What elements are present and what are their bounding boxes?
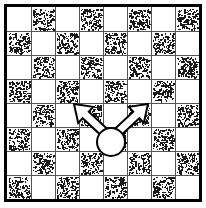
stipple-dot — [24, 33, 25, 34]
stipple-dot — [61, 143, 62, 145]
board-square — [7, 151, 31, 175]
board-square-base — [175, 31, 199, 55]
stipple-dot — [15, 132, 16, 134]
stipple-dot — [155, 43, 156, 44]
stipple-dot — [62, 92, 64, 93]
stipple-dot — [83, 20, 85, 22]
stipple-dot — [170, 50, 171, 52]
stipple-dot — [158, 41, 160, 43]
stipple-dot — [187, 170, 188, 171]
stipple-dot — [158, 91, 159, 93]
stipple-dot — [101, 73, 102, 74]
stipple-dot — [111, 89, 112, 91]
stipple-dot — [18, 101, 19, 102]
stipple-dot — [65, 142, 66, 143]
board-square — [175, 55, 199, 79]
stipple-dot — [172, 181, 174, 182]
stipple-dot — [40, 10, 41, 11]
stipple-dot — [23, 101, 25, 103]
stipple-dot — [133, 21, 135, 23]
stipple-dot — [83, 28, 84, 30]
stipple-dot — [138, 12, 139, 14]
stipple-dot — [9, 141, 10, 142]
stipple-dot — [138, 68, 140, 70]
stipple-dot — [18, 39, 19, 40]
stipple-dot — [119, 81, 120, 82]
stipple-dot — [180, 22, 181, 23]
stipple-dot — [27, 196, 29, 198]
stipple-dot — [188, 112, 190, 114]
stipple-dot — [26, 99, 27, 100]
stipple-dot — [46, 57, 47, 59]
stipple-dot — [145, 68, 146, 69]
stipple-dot — [178, 116, 179, 118]
stipple-dot — [46, 13, 47, 14]
stipple-dot — [85, 12, 86, 14]
stipple-dot — [15, 33, 16, 35]
stipple-dot — [178, 159, 179, 160]
stipple-dot — [167, 96, 168, 97]
stipple-dot — [83, 19, 84, 20]
stipple-dot — [182, 167, 183, 169]
stipple-dot — [70, 187, 71, 188]
stipple-dot — [181, 107, 183, 108]
stipple-dot — [22, 40, 23, 41]
stipple-dot — [63, 85, 65, 87]
stipple-dot — [43, 153, 45, 154]
stipple-dot — [33, 160, 35, 161]
stipple-dot — [178, 13, 179, 14]
stipple-dot — [147, 27, 149, 28]
stipple-dot — [146, 168, 147, 169]
stipple-dot — [195, 168, 196, 169]
stipple-dot — [164, 148, 166, 150]
stipple-dot — [173, 187, 174, 189]
stipple-dot — [171, 177, 172, 178]
stipple-dot — [12, 87, 14, 89]
stipple-dot — [158, 136, 160, 138]
stipple-dot — [94, 153, 95, 154]
stipple-dot — [63, 145, 64, 147]
stipple-dot — [34, 25, 35, 27]
stipple-dot — [20, 180, 21, 182]
stipple-dot — [71, 88, 72, 89]
stipple-dot — [188, 168, 190, 169]
stipple-dot — [9, 142, 10, 144]
stipple-dot — [162, 196, 163, 197]
stipple-dot — [19, 53, 20, 54]
stipple-dot — [101, 75, 102, 76]
board-square-base — [127, 175, 151, 199]
board-square — [103, 55, 127, 79]
stipple-dot — [171, 50, 172, 51]
stipple-dot — [39, 158, 40, 159]
stipple-dot — [99, 13, 100, 14]
stipple-dot — [62, 130, 63, 131]
stipple-dot — [129, 158, 131, 159]
stipple-dot — [122, 179, 123, 180]
stipple-dot — [188, 163, 190, 165]
stipple-dot — [106, 37, 108, 39]
stipple-dot — [69, 96, 70, 97]
stipple-dot — [155, 181, 156, 182]
stipple-dot — [20, 129, 22, 131]
stipple-dot — [185, 167, 187, 168]
stipple-dot — [146, 170, 147, 172]
stipple-dot — [53, 167, 54, 169]
stipple-dot — [21, 53, 23, 54]
stipple-dot — [29, 185, 31, 187]
stipple-dot — [81, 29, 82, 30]
stipple-dot — [121, 180, 123, 181]
stipple-dot — [190, 165, 191, 167]
stipple-dot — [81, 16, 82, 17]
stipple-dot — [100, 116, 102, 117]
stipple-dot — [182, 73, 184, 75]
stipple-dot — [94, 171, 95, 172]
stipple-dot — [140, 73, 142, 74]
stipple-dot — [143, 70, 145, 72]
stipple-dot — [181, 15, 182, 16]
stipple-dot — [53, 111, 55, 113]
stipple-dot — [133, 156, 134, 157]
stipple-dot — [60, 140, 61, 141]
stipple-dot — [171, 189, 173, 190]
stipple-dot — [187, 10, 188, 11]
stipple-dot — [50, 110, 52, 111]
